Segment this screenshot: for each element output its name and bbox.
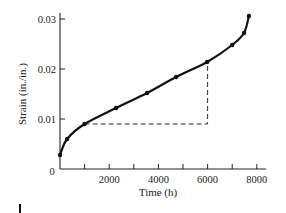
creep-curve-line bbox=[60, 16, 249, 155]
y-axis-title: Strain (in./in.) bbox=[16, 63, 29, 125]
data-point bbox=[82, 122, 86, 126]
page-margin-mark bbox=[19, 204, 21, 213]
x-tick-label: 8000 bbox=[246, 174, 267, 185]
x-tick-label: 4000 bbox=[148, 174, 169, 185]
data-point bbox=[145, 91, 149, 95]
creep-strain-chart: 0.010.020.0302000400060008000 Time (h) S… bbox=[0, 0, 286, 213]
data-point bbox=[174, 75, 178, 79]
axes: 0.010.020.0302000400060008000 bbox=[38, 13, 268, 185]
y-tick-label: 0.02 bbox=[38, 64, 56, 75]
x-tick-label: 6000 bbox=[197, 174, 218, 185]
y-tick-label: 0.01 bbox=[38, 114, 56, 125]
x-axis-title: Time (h) bbox=[139, 186, 178, 199]
data-point bbox=[242, 31, 246, 35]
data-point bbox=[230, 43, 234, 47]
data-point bbox=[65, 137, 69, 141]
data-point bbox=[205, 60, 209, 64]
x-tick-label: 2000 bbox=[99, 174, 120, 185]
data-point bbox=[58, 153, 62, 157]
data-point bbox=[247, 14, 251, 18]
data-point bbox=[114, 106, 118, 110]
y-tick-label: 0.03 bbox=[38, 14, 56, 25]
origin-label: 0 bbox=[49, 166, 54, 177]
data-series bbox=[58, 14, 251, 157]
